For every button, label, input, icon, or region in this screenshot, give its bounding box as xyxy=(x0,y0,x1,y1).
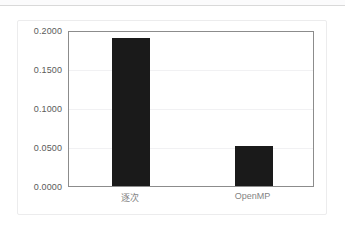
x-axis-category-label: OpenMP xyxy=(235,191,271,201)
bar xyxy=(235,146,273,186)
chart-card: 0.00000.05000.10000.15000.2000 逐次OpenMP xyxy=(17,20,327,215)
y-axis-tick-labels: 0.00000.05000.10000.15000.2000 xyxy=(18,31,62,187)
x-axis-category-labels: 逐次OpenMP xyxy=(68,191,314,211)
y-axis-tick-label: 0.0000 xyxy=(34,182,62,192)
bar-chart: 0.00000.05000.10000.15000.2000 逐次OpenMP xyxy=(18,21,328,216)
bars xyxy=(69,32,313,186)
y-axis-tick-label: 0.0500 xyxy=(34,143,62,153)
page-top-divider xyxy=(0,5,345,6)
plot-area xyxy=(68,31,314,187)
x-axis-category-label: 逐次 xyxy=(121,191,139,204)
y-axis-tick-label: 0.1500 xyxy=(34,65,62,75)
y-axis-tick-label: 0.2000 xyxy=(34,26,62,36)
y-axis-tick-label: 0.1000 xyxy=(34,104,62,114)
bar xyxy=(112,38,150,186)
